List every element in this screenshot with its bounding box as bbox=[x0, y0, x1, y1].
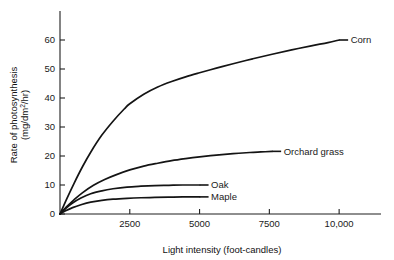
x-tick-label-5000: 5000 bbox=[189, 218, 210, 229]
y-tick-label-60: 60 bbox=[44, 34, 55, 45]
series-label-maple: Maple bbox=[211, 191, 237, 202]
y-axis-units-suffix: /hr) bbox=[19, 90, 30, 104]
y-axis-title-line1: Rate of photosynthesis bbox=[8, 66, 19, 163]
y-tick-label-50: 50 bbox=[44, 63, 55, 74]
y-axis-title: Rate of photosynthesis (mg/dm2/hr) bbox=[8, 66, 30, 163]
x-axis-ticks bbox=[130, 209, 339, 214]
x-axis-title: Light intensity (foot-candles) bbox=[163, 244, 282, 255]
series-label-orchard-grass: Orchard grass bbox=[284, 146, 344, 157]
x-tick-label-7500: 7500 bbox=[259, 218, 280, 229]
series-label-oak: Oak bbox=[211, 179, 229, 190]
chart-canvas: 0102030405060 25005000750010,000 CornOrc… bbox=[0, 0, 394, 260]
x-tick-label-2500: 2500 bbox=[119, 218, 140, 229]
y-axis-tick-labels: 0102030405060 bbox=[44, 34, 55, 219]
x-axis-tick-labels: 25005000750010,000 bbox=[119, 218, 353, 229]
y-tick-label-0: 0 bbox=[50, 208, 55, 219]
series-annotations-group: CornOrchard grassOakMaple bbox=[200, 34, 372, 202]
y-tick-label-30: 30 bbox=[44, 121, 55, 132]
y-axis-title-line2: (mg/dm2/hr) bbox=[19, 90, 30, 140]
x-tick-label-10000: 10,000 bbox=[325, 218, 354, 229]
data-series-group bbox=[60, 40, 339, 214]
y-tick-label-20: 20 bbox=[44, 150, 55, 161]
y-tick-label-40: 40 bbox=[44, 92, 55, 103]
y-tick-label-10: 10 bbox=[44, 179, 55, 190]
y-axis-units-prefix: (mg/dm bbox=[19, 108, 30, 140]
y-axis-ticks bbox=[60, 40, 65, 214]
series-label-corn: Corn bbox=[351, 34, 372, 45]
photosynthesis-light-response-chart: 0102030405060 25005000750010,000 CornOrc… bbox=[0, 0, 394, 260]
curve-corn bbox=[60, 40, 339, 214]
curve-orchard-grass bbox=[60, 151, 272, 214]
